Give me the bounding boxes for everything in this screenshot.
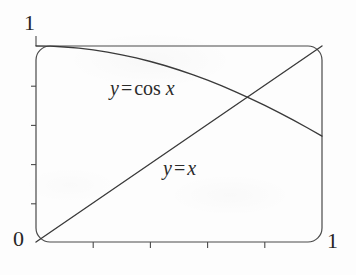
plot-graphic bbox=[0, 0, 356, 275]
cos-curve bbox=[36, 46, 322, 136]
identity-line bbox=[36, 46, 322, 242]
cos-label-function: cos bbox=[134, 77, 161, 99]
cos-label-arg: x bbox=[166, 77, 175, 99]
x-axis-max-label: 1 bbox=[327, 230, 338, 252]
y-axis-max-label: 1 bbox=[24, 12, 35, 34]
line-label-rhs: x bbox=[187, 157, 196, 179]
cos-label-lhs: y bbox=[110, 77, 119, 99]
line-label-equals: = bbox=[172, 157, 187, 179]
cos-label-equals: = bbox=[119, 77, 134, 99]
line-label-lhs: y bbox=[163, 157, 172, 179]
y-axis-ticks bbox=[31, 86, 36, 204]
x-axis-ticks bbox=[93, 242, 265, 248]
origin-label: 0 bbox=[13, 228, 24, 250]
figure-canvas: 1 0 1 y=cos x y=x bbox=[0, 0, 356, 275]
identity-line-label: y=x bbox=[163, 158, 196, 178]
cos-curve-label: y=cos x bbox=[110, 78, 175, 98]
